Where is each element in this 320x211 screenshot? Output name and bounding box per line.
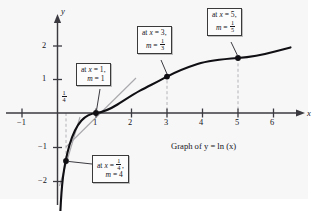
leader-line-x-quarter: [69, 162, 92, 165]
x-tick-label-4: 4: [199, 118, 203, 127]
y-axis-name: y: [61, 6, 65, 16]
callout-at-x-quarter-line1: at x = 14,: [97, 158, 124, 171]
point-x-3: [164, 74, 170, 80]
point-x-1: [93, 110, 99, 116]
callout-at-x-quarter-line2: m = 4: [97, 171, 124, 180]
figure-ln-graph: −1 1 2 3 4 5 6 2 1 −1 −2 y x 1 4 Graph o…: [0, 0, 320, 211]
callout-at-x-5: at x = 5, m = 15: [207, 8, 242, 36]
point-x-quarter: [63, 158, 69, 164]
callout-at-x-3-m-denominator: 3: [160, 45, 165, 51]
callout-at-x-1-line2: m = 1: [81, 75, 106, 84]
callout-at-x-3: at x = 3, m = 13: [137, 26, 172, 54]
leader-line-x-1: [97, 89, 101, 111]
x-quarter-fraction: 1 4: [62, 90, 67, 103]
y-tick-label--2: −2: [38, 176, 47, 185]
callout-at-x-quarter-m-value: 4: [119, 170, 123, 179]
x-tick-label-1: 1: [93, 118, 97, 127]
x-tick-label-3: 3: [164, 118, 168, 127]
callout-at-x-1: at x = 1, m = 1: [76, 63, 111, 86]
x-tick-label-6: 6: [270, 118, 274, 127]
y-tick-label-2: 2: [42, 41, 46, 50]
callout-at-x-3-m-fraction: 13: [160, 38, 165, 51]
x-axis-name: x: [307, 108, 311, 118]
callout-at-x-1-m-value: 1: [101, 74, 105, 83]
x-quarter-axis-label: 1 4: [61, 90, 67, 103]
y-tick-label--1: −1: [38, 142, 47, 151]
figure-caption: Graph of y = ln (x): [171, 141, 236, 151]
x-tick-label-2: 2: [128, 118, 132, 127]
callout-at-x-5-line2: m = 15: [212, 20, 237, 33]
point-x-5: [235, 55, 241, 61]
x-axis-arrowhead: [296, 109, 305, 116]
leader-line-x-3: [161, 60, 167, 74]
callout-at-x-5-m-denominator: 5: [230, 27, 235, 33]
callout-at-x-quarter: at x = 14, m = 4: [92, 155, 129, 183]
x-tick-label--1: −1: [17, 118, 26, 127]
leader-line-x-5: [231, 42, 238, 56]
x-quarter-denominator: 4: [62, 97, 67, 103]
callout-at-x-quarter-x-fraction: 14: [116, 158, 121, 171]
y-tick-label-1: 1: [42, 74, 46, 83]
callout-at-x-3-line2: m = 13: [142, 38, 167, 51]
callout-at-x-5-m-fraction: 15: [230, 20, 235, 33]
x-tick-label-5: 5: [235, 118, 239, 127]
